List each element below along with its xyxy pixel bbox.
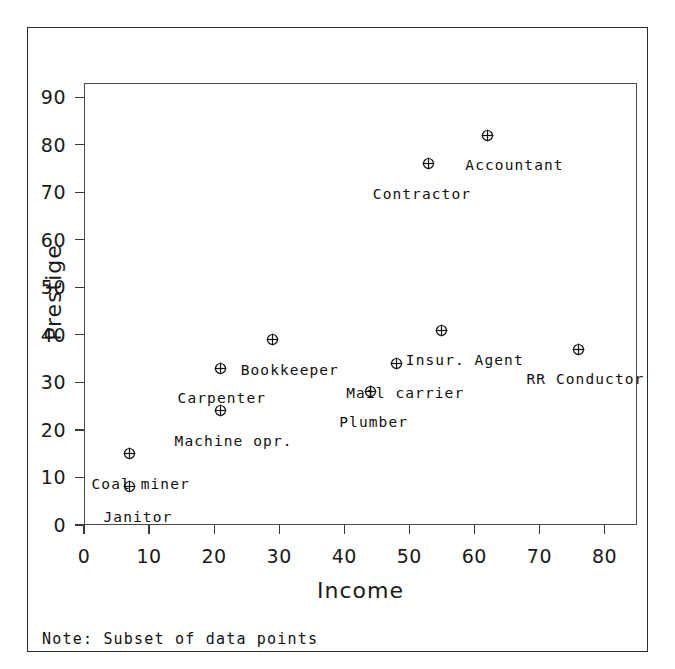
figure-note: Note: Subset of data points (42, 630, 318, 648)
x-axis-tick (214, 525, 215, 534)
x-axis-tick (409, 525, 410, 534)
y-axis-tick (75, 382, 84, 383)
x-axis-tick-label: 70 (527, 545, 552, 567)
data-point-marker[interactable] (266, 333, 279, 346)
data-point-marker[interactable] (422, 157, 435, 170)
data-point-label: Contractor (373, 186, 471, 202)
y-axis-tick-label: 30 (0, 371, 66, 393)
y-axis-tick (75, 192, 84, 193)
x-axis-tick (539, 525, 540, 534)
x-axis-tick (344, 525, 345, 534)
data-point-label: Machine opr. (175, 433, 293, 449)
data-point-marker[interactable] (435, 324, 448, 337)
y-axis-tick (75, 287, 84, 288)
figure-canvas: 010203040506070800102030405060708090 Jan… (0, 0, 675, 669)
data-point-label: Carpenter (178, 390, 266, 406)
data-point-marker[interactable] (572, 343, 585, 356)
y-axis-tick-label: 10 (0, 466, 66, 488)
x-axis-tick-label: 60 (462, 545, 487, 567)
y-axis-tick-label: 20 (0, 419, 66, 441)
data-point-label: Janitor (104, 509, 173, 525)
x-axis-tick-label: 30 (267, 545, 292, 567)
x-axis-tick (279, 525, 280, 534)
plot-area-frame (84, 83, 637, 525)
y-axis-tick (75, 97, 84, 98)
x-axis-tick-label: 50 (397, 545, 422, 567)
data-point-label: Accountant (465, 157, 563, 173)
y-axis-tick-label: 70 (0, 181, 66, 203)
x-axis-tick (83, 525, 84, 534)
y-axis-tick (75, 334, 84, 335)
y-axis-tick-label: 80 (0, 134, 66, 156)
x-axis-tick (148, 525, 149, 534)
data-point-label: Plumber (339, 414, 408, 430)
x-axis-tick-label: 80 (592, 545, 617, 567)
data-point-label: Mail carrier (346, 385, 464, 401)
x-axis-tick (474, 525, 475, 534)
y-axis-tick (75, 524, 84, 525)
y-axis-tick (75, 477, 84, 478)
x-axis-title: Income (84, 578, 637, 603)
data-point-label: Coal miner (92, 476, 190, 492)
y-axis-title: Prestige (41, 223, 66, 363)
x-axis-tick (604, 525, 605, 534)
y-axis-tick (75, 429, 84, 430)
data-point-marker[interactable] (123, 447, 136, 460)
data-point-marker[interactable] (214, 362, 227, 375)
y-axis-tick (75, 239, 84, 240)
x-axis-tick-label: 40 (332, 545, 357, 567)
x-axis-tick-label: 10 (136, 545, 161, 567)
data-point-marker[interactable] (481, 129, 494, 142)
x-axis-tick-label: 20 (202, 545, 227, 567)
y-axis-tick-label: 90 (0, 86, 66, 108)
data-point-label: Insur. Agent (406, 352, 524, 368)
data-point-marker[interactable] (214, 404, 227, 417)
y-axis-tick-label: 0 (0, 514, 66, 536)
y-axis-tick (75, 144, 84, 145)
data-point-label: Bookkeeper (241, 362, 339, 378)
x-axis-tick-label: 0 (78, 545, 91, 567)
data-point-label: RR Conductor (526, 371, 644, 387)
data-point-marker[interactable] (390, 357, 403, 370)
